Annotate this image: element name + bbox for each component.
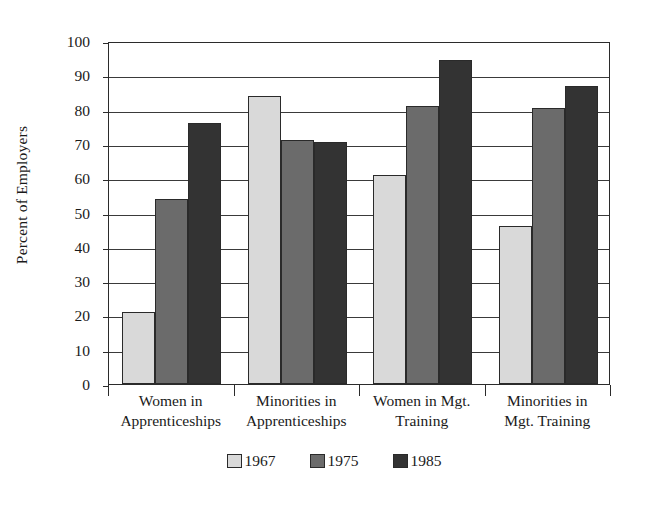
y-tick-label: 20	[75, 307, 91, 325]
legend-item: 1985	[393, 452, 442, 470]
bar	[373, 175, 406, 384]
y-axis-title: Percent of Employers	[0, 0, 44, 390]
y-axis-tick-labels: 0102030405060708090100	[44, 42, 100, 385]
bar	[406, 106, 439, 384]
bar	[188, 123, 221, 384]
y-tick-label: 100	[67, 33, 90, 51]
y-tick-label: 90	[75, 67, 91, 85]
legend-item: 1975	[310, 452, 359, 470]
legend-label: 1985	[411, 452, 442, 470]
x-axis-category-line: Women in	[99, 391, 243, 411]
x-axis-category-tick	[359, 385, 360, 396]
y-tick-label: 70	[75, 136, 91, 154]
bar	[314, 142, 347, 384]
x-axis-category-label: Minorities inMgt. Training	[476, 391, 620, 432]
x-axis-category-tick	[485, 385, 486, 396]
x-axis-category-line: Minorities in	[476, 391, 620, 411]
bar	[248, 96, 281, 384]
x-axis-category-label: Women inApprenticeships	[99, 391, 243, 432]
bar-chart: Percent of Employers 0102030405060708090…	[0, 0, 668, 508]
x-axis-category-label: Women in Mgt.Training	[350, 391, 494, 432]
y-tick-label: 80	[75, 102, 91, 120]
legend-swatch-icon	[393, 454, 408, 468]
y-tick-label: 10	[75, 342, 91, 360]
x-axis-category-line: Training	[350, 411, 494, 431]
bar	[122, 312, 155, 384]
bar	[532, 108, 565, 384]
x-axis-category-line: Apprenticeships	[225, 411, 369, 431]
x-axis-category-line: Women in Mgt.	[350, 391, 494, 411]
x-axis-category-tick	[610, 385, 611, 396]
bar	[439, 60, 472, 384]
legend-swatch-icon	[310, 454, 325, 468]
y-tick-label: 60	[75, 170, 91, 188]
x-axis-category-tick	[234, 385, 235, 396]
x-axis-category-line: Minorities in	[225, 391, 369, 411]
legend-swatch-icon	[227, 454, 242, 468]
plot-area	[108, 42, 610, 385]
legend-item: 1967	[227, 452, 276, 470]
bar	[155, 199, 188, 384]
y-axis-title-text: Percent of Employers	[13, 126, 31, 264]
y-tick-label: 40	[75, 239, 91, 257]
x-axis-category-line: Mgt. Training	[476, 411, 620, 431]
legend-label: 1975	[328, 452, 359, 470]
y-tick-label: 50	[75, 205, 91, 223]
y-tick-label: 0	[82, 376, 90, 394]
bar	[499, 226, 532, 384]
legend-label: 1967	[245, 452, 276, 470]
x-axis-category-line: Apprenticeships	[99, 411, 243, 431]
bar	[565, 86, 598, 384]
y-tick-label: 30	[75, 273, 91, 291]
x-axis-category-label: Minorities inApprenticeships	[225, 391, 369, 432]
chart-legend: 196719751985	[0, 452, 668, 470]
bar	[281, 140, 314, 384]
bars-layer	[109, 43, 609, 384]
x-axis-category-tick	[108, 385, 109, 396]
